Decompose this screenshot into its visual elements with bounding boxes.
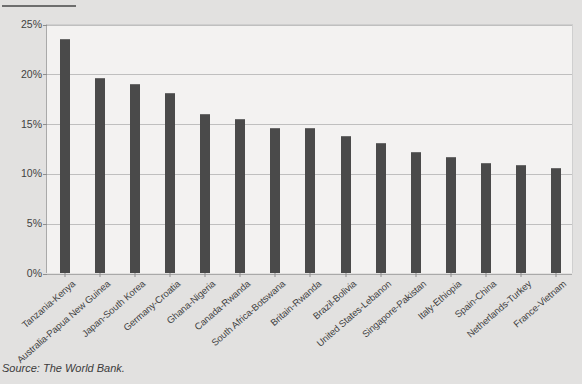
bar — [235, 119, 245, 273]
bar-slot — [47, 25, 82, 273]
bar — [481, 163, 491, 273]
bar — [411, 152, 421, 274]
y-tick-label: 20% — [0, 68, 42, 80]
x-axis-label: Singapore-Pakistan — [360, 278, 428, 340]
plot-wrapper: 25%20%15%10%5%0% — [0, 18, 582, 276]
chart-figure: 25%20%15%10%5%0% Tanzania-KenyaAustralia… — [0, 0, 582, 384]
bar-slot — [152, 25, 187, 273]
y-tick-label: 15% — [0, 118, 42, 130]
y-tick-label: 10% — [0, 167, 42, 179]
top-rule-divider — [2, 5, 76, 7]
bar-slot — [504, 25, 539, 273]
bar-slot — [117, 25, 152, 273]
bar — [270, 128, 280, 273]
bar-slot — [223, 25, 258, 273]
bar — [165, 93, 175, 273]
x-axis-label: Netherlands-Turkey — [465, 278, 534, 340]
bar-slot — [539, 25, 574, 273]
bar — [376, 143, 386, 273]
bar-series — [47, 25, 572, 273]
bar — [446, 157, 456, 273]
bar — [341, 136, 351, 273]
bar-slot — [188, 25, 223, 273]
x-axis-label: Japan-South Korea — [79, 278, 147, 339]
y-tick-label: 0% — [0, 267, 42, 279]
bar — [516, 165, 526, 273]
y-tick-label: 5% — [0, 217, 42, 229]
bar-slot — [433, 25, 468, 273]
bar-slot — [328, 25, 363, 273]
bar-slot — [82, 25, 117, 273]
source-note: Source: The World Bank. — [2, 362, 125, 374]
bar — [551, 168, 561, 273]
x-axis-labels: Tanzania-KenyaAustralia-Papua New Guinea… — [46, 276, 573, 356]
bar-slot — [398, 25, 433, 273]
bar-slot — [469, 25, 504, 273]
bar-slot — [293, 25, 328, 273]
plot-area — [46, 24, 573, 273]
bar — [60, 39, 70, 273]
bar — [305, 128, 315, 273]
y-tick-label: 25% — [0, 18, 42, 30]
bar — [95, 78, 105, 273]
bar-slot — [363, 25, 398, 273]
bar — [200, 114, 210, 273]
y-tick-mark — [43, 274, 47, 275]
bar-slot — [258, 25, 293, 273]
bar — [130, 84, 140, 273]
